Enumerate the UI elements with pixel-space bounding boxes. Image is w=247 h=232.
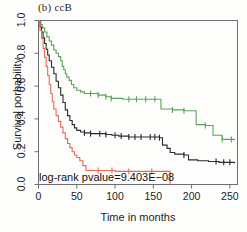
y-axis-ticks (35, 21, 39, 185)
survival-curve-group-red (39, 21, 171, 185)
survival-curve-group-green (39, 21, 235, 141)
x-tick-label: 0 (24, 190, 54, 202)
y-tick-label: 0.6 (15, 72, 27, 98)
pvalue-annotation: log-rank pvalue=9.403E−08 (39, 171, 174, 183)
y-tick-label: 0.8 (15, 39, 27, 65)
x-tick-label: 200 (177, 190, 207, 202)
y-tick-label: 1.0 (15, 7, 27, 33)
x-tick-label: 100 (100, 190, 130, 202)
y-tick-label: 0.4 (15, 105, 27, 131)
series-layer (39, 21, 235, 185)
x-tick-label: 150 (138, 190, 168, 202)
plot-frame (39, 21, 238, 185)
x-tick-label: 250 (215, 190, 245, 202)
y-tick-label: 0.2 (15, 138, 27, 164)
x-tick-label: 50 (62, 190, 92, 202)
x-axis-title: Time in months (38, 211, 238, 223)
y-tick-label: 0.0 (15, 171, 27, 197)
x-axis-ticks (39, 185, 230, 189)
kaplan-meier-figure: (b) ccB Survival porbability Time in mon… (0, 0, 247, 232)
